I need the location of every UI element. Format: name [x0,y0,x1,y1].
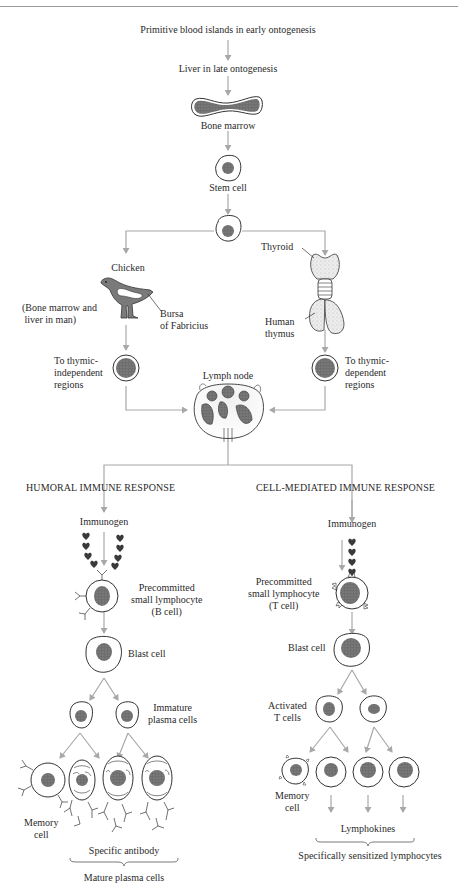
label-b-memory: Memory cell [24,817,58,841]
b-cell-icon [75,570,118,620]
label-thymus: Human thymus [265,316,294,340]
humoral-immunogen-particles [82,533,123,570]
humoral-title: HUMORAL IMMUNE RESPONSE [26,482,175,494]
activated-t-cell-icon [316,696,342,722]
label-thymic-dependent: To thymic- dependent regions [345,355,389,391]
lymphokine-brace [316,838,414,846]
immature-plasma-cell-icon [116,702,139,728]
label-thyroid: Thyroid [261,241,293,253]
thymus-thyroid-icon [302,248,344,334]
label-lymphokines: Lymphokines [341,823,395,835]
label-humoral-immunogen: Immunogen [80,516,128,528]
t-memory-cell-icon [279,755,309,785]
b-memory-cell-icon [18,760,68,808]
b-progenitor-cell-icon [113,355,139,381]
label-chicken: Chicken [111,262,144,274]
label-human-equivalent: (Bone marrow and liver in man) [22,302,97,326]
sensitized-t-cell-icon [389,757,419,787]
sensitized-t-cell-icon [316,757,346,787]
cell-mediated-title: CELL-MEDIATED IMMUNE RESPONSE [256,482,435,494]
antibody-molecules [64,800,174,832]
cell-mediated-immunogen-particles [348,539,355,576]
chicken-icon [101,278,161,318]
mature-plasma-cell-icon [142,756,172,800]
label-b-blast: Blast cell [128,648,166,660]
t-progenitor-cell-icon [312,355,338,381]
label-cm-immunogen: Immunogen [328,518,376,530]
label-specific-antibody: Specific antibody [89,845,159,857]
label-immature-plasma: Immature plasma cells [148,702,197,726]
label-liver: Liver in late ontogenesis [179,63,278,75]
label-origin: Primitive blood islands in early ontogen… [140,24,315,36]
stem-cell-icon [216,155,241,181]
label-bone-marrow: Bone marrow [201,120,256,132]
activated-t-cell-icon [360,696,386,722]
bone-marrow-icon [192,97,263,117]
label-t-cell: Precommitted small lymphocyte (T cell) [248,576,319,612]
t-cell-icon [332,573,368,609]
immature-plasma-cell-icon [70,702,93,728]
label-thymic-independent: To thymic- independent regions [54,355,103,391]
label-stem-cell: Stem cell [209,182,247,194]
label-t-blast: Blast cell [288,642,326,654]
immune-development-diagram [0,0,466,896]
label-mature-plasma: Mature plasma cells [84,872,165,884]
label-t-memory: Memory cell [275,790,309,814]
mature-plasma-cell-icon [103,756,133,800]
label-activated-t: Activated T cells [268,700,307,724]
sensitized-t-cell-icon [353,757,383,787]
label-sensitized-lymphocytes: Specifically sensitized lymphocytes [298,850,441,862]
plasma-cell-braces [70,858,178,866]
lymph-node-icon [194,384,263,442]
label-b-cell: Precommitted small lymphocyte (B cell) [131,582,202,618]
label-bursa: Bursa of Fabricius [160,308,208,332]
t-blast-cell-icon [334,633,369,666]
label-lymph-node: Lymph node [203,370,253,382]
b-blast-cell-icon [86,636,121,672]
progenitor-cell-icon [216,215,241,241]
mature-plasma-cell-icon [69,760,95,800]
